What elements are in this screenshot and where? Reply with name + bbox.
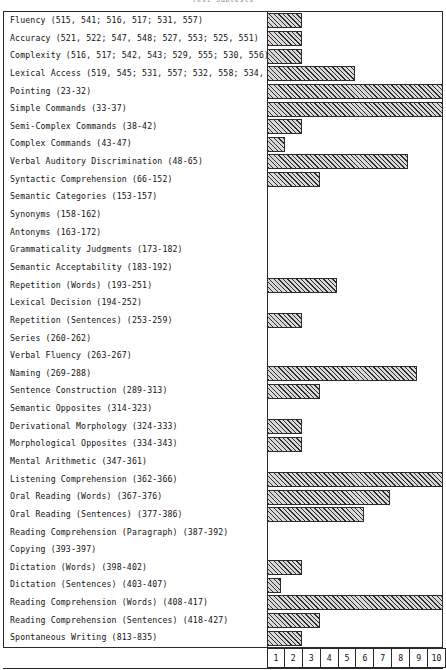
bar [267, 119, 302, 134]
category-label: Dictation (Sentences) (403-407) [10, 576, 167, 594]
x-tick-label: 6 [357, 649, 375, 668]
x-tick-label: 9 [410, 649, 428, 668]
category-label: Verbal Auditory Discrimination (48-65) [10, 153, 203, 171]
bar [267, 631, 302, 646]
category-label: Verbal Fluency (263-267) [10, 347, 132, 365]
bar [267, 578, 281, 593]
x-tick-label: 4 [321, 649, 339, 668]
category-label: Reading Comprehension (Sentences) (418-4… [10, 612, 228, 630]
bar [267, 560, 302, 575]
chart-title: Test Subtests [0, 0, 446, 3]
bar [267, 137, 285, 152]
category-label: Semantic Acceptability (183-192) [10, 259, 173, 277]
category-label: Mental Arithmetic (347-361) [10, 453, 147, 471]
bar [267, 278, 337, 293]
bar [267, 154, 408, 169]
x-tick-label: 5 [339, 649, 357, 668]
category-label: Pointing (23-32) [10, 83, 91, 101]
category-label-column: Fluency (515, 541; 516, 517; 531, 557)Ac… [4, 12, 266, 647]
category-label: Semantic Categories (153-157) [10, 188, 157, 206]
category-label: Listening Comprehension (362-366) [10, 471, 178, 489]
bar [267, 49, 302, 64]
bar [267, 490, 390, 505]
horizontal-bar-chart: Test Subtests Fluency (515, 541; 516, 51… [0, 0, 446, 670]
bar [267, 31, 302, 46]
category-label: Series (260-262) [10, 330, 91, 348]
x-tick-label: 3 [303, 649, 321, 668]
category-label: Semi-Complex Commands (38-42) [10, 118, 157, 136]
category-label: Copying (393-397) [10, 541, 96, 559]
x-tick-label: 8 [392, 649, 410, 668]
bar [267, 84, 443, 99]
category-label: Synonyms (158-162) [10, 206, 101, 224]
bar [267, 507, 364, 522]
bar [267, 313, 302, 328]
category-label: Lexical Access (519, 545; 531, 557; 532,… [10, 65, 289, 83]
bar [267, 366, 417, 381]
category-label: Sentence Construction (289-313) [10, 382, 167, 400]
category-label: Semantic Opposites (314-323) [10, 400, 152, 418]
category-label: Complexity (516, 517; 542, 543; 529, 555… [10, 47, 269, 65]
bottom-rule [3, 668, 443, 669]
category-label: Simple Commands (33-37) [10, 100, 127, 118]
category-label: Lexical Decision (194-252) [10, 294, 142, 312]
x-axis-tick-row: 12345678910 [267, 648, 446, 668]
x-tick-label: 1 [267, 649, 285, 668]
category-label: Antonyms (163-172) [10, 224, 101, 242]
category-label: Repetition (Words) (193-251) [10, 277, 152, 295]
bar [267, 472, 443, 487]
x-tick-label: 7 [374, 649, 392, 668]
category-label: Spontaneous Writing (813-835) [10, 629, 157, 647]
category-label: Reading Comprehension (Words) (408-417) [10, 594, 208, 612]
category-label: Syntactic Comprehension (66-152) [10, 171, 173, 189]
category-label: Morphological Opposites (334-343) [10, 435, 178, 453]
category-label: Grammaticality Judgments (173-182) [10, 241, 183, 259]
category-label: Dictation (Words) (398-402) [10, 559, 147, 577]
bar [267, 13, 302, 28]
bar [267, 384, 320, 399]
category-label: Derivational Morphology (324-333) [10, 418, 178, 436]
x-tick-label: 2 [285, 649, 303, 668]
bar [267, 437, 302, 452]
bar [267, 102, 443, 117]
bar [267, 613, 320, 628]
category-label: Naming (269-288) [10, 365, 91, 383]
category-label: Oral Reading (Words) (367-376) [10, 488, 162, 506]
bar [267, 172, 320, 187]
bar [267, 419, 302, 434]
x-tick-label: 10 [428, 649, 446, 668]
x-axis: 12345678910 [3, 648, 443, 669]
plot-area [267, 12, 443, 647]
category-label: Complex Commands (43-47) [10, 135, 132, 153]
category-label: Oral Reading (Sentences) (377-386) [10, 506, 183, 524]
category-label: Accuracy (521, 522; 547, 548; 527, 553; … [10, 30, 259, 48]
category-label: Fluency (515, 541; 516, 517; 531, 557) [10, 12, 203, 30]
category-label: Repetition (Sentences) (253-259) [10, 312, 173, 330]
bar [267, 595, 443, 610]
bar [267, 66, 355, 81]
category-label: Reading Comprehension (Paragraph) (387-3… [10, 524, 228, 542]
